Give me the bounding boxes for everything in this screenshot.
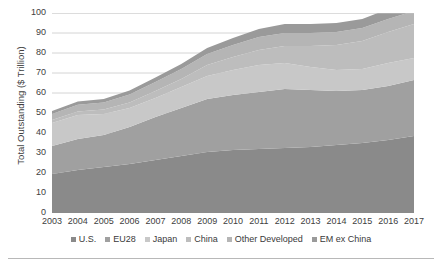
- y-tick-label: 60: [20, 88, 46, 97]
- legend-label: Other Developed: [235, 234, 303, 244]
- y-tick-label: 70: [20, 68, 46, 77]
- legend-swatch-icon: [312, 237, 317, 242]
- legend-item[interactable]: EU28: [105, 234, 136, 244]
- legend-label: Japan: [153, 234, 178, 244]
- legend-item[interactable]: EM ex China: [312, 234, 372, 244]
- chart-legend: U.S.EU28JapanChinaOther DevelopedEM ex C…: [0, 234, 442, 244]
- plot-svg: [52, 13, 414, 213]
- legend-label: EU28: [113, 234, 136, 244]
- y-tick-label: 20: [20, 168, 46, 177]
- legend-item[interactable]: U.S.: [71, 234, 97, 244]
- y-tick-label: 10: [20, 188, 46, 197]
- y-tick-label: 90: [20, 28, 46, 37]
- y-tick-label: 100: [20, 8, 46, 17]
- plot-area: [52, 13, 414, 213]
- y-tick-label: 80: [20, 48, 46, 57]
- x-tick-label: 2017: [399, 216, 429, 226]
- y-tick-label: 40: [20, 128, 46, 137]
- legend-swatch-icon: [105, 237, 110, 242]
- legend-item[interactable]: Other Developed: [227, 234, 303, 244]
- y-tick-label: 50: [20, 108, 46, 117]
- legend-item[interactable]: Japan: [145, 234, 178, 244]
- y-tick-label: 30: [20, 148, 46, 157]
- legend-label: China: [194, 234, 218, 244]
- legend-swatch-icon: [227, 237, 232, 242]
- legend-swatch-icon: [71, 237, 76, 242]
- legend-swatch-icon: [186, 237, 191, 242]
- legend-swatch-icon: [145, 237, 150, 242]
- stacked-area-chart: Total Outstanding ($ Trillion) 100908070…: [0, 0, 442, 266]
- legend-item[interactable]: China: [186, 234, 218, 244]
- bottom-divider: [8, 258, 434, 259]
- legend-label: EM ex China: [320, 234, 372, 244]
- legend-label: U.S.: [79, 234, 97, 244]
